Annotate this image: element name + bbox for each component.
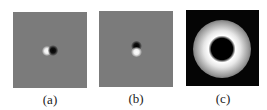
panel-b-label: (b) — [116, 91, 156, 107]
panel-b-image — [99, 11, 173, 87]
panel-a-image — [13, 12, 87, 88]
annular-ring — [193, 20, 251, 78]
panel-c-label: (c) — [203, 91, 243, 107]
panel-a-label: (a) — [30, 92, 70, 108]
black-lobe — [48, 45, 58, 56]
panel-c-image — [186, 10, 259, 86]
white-lobe — [131, 47, 142, 57]
